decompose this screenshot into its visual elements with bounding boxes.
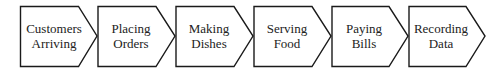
step-5-line2: Bills bbox=[334, 36, 394, 51]
step-5-line1: Paying bbox=[334, 21, 394, 36]
step-4-label: Serving Food bbox=[257, 21, 317, 51]
step-1-line1: Customers bbox=[24, 21, 84, 36]
step-3-line1: Making bbox=[179, 21, 239, 36]
step-2-line1: Placing bbox=[101, 21, 161, 36]
step-6-line2: Data bbox=[411, 36, 471, 51]
step-5-label: Paying Bills bbox=[334, 21, 394, 51]
step-1-line2: Arriving bbox=[24, 36, 84, 51]
step-2-label: Placing Orders bbox=[101, 21, 161, 51]
step-6-line1: Recording bbox=[411, 21, 471, 36]
step-4-line1: Serving bbox=[257, 21, 317, 36]
step-4-line2: Food bbox=[257, 36, 317, 51]
step-6-label: Recording Data bbox=[411, 21, 471, 51]
step-2-line2: Orders bbox=[101, 36, 161, 51]
step-3-line2: Dishes bbox=[179, 36, 239, 51]
step-3-label: Making Dishes bbox=[179, 21, 239, 51]
step-1-label: Customers Arriving bbox=[24, 21, 84, 51]
